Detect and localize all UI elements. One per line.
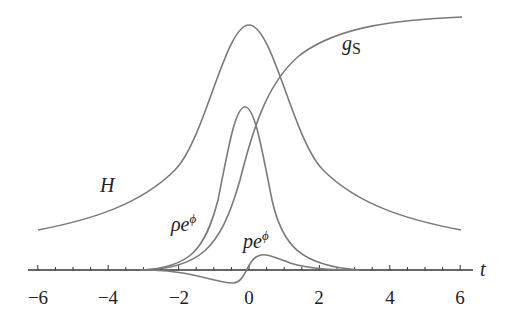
tick-label: −2 (169, 287, 189, 308)
line-chart: −6 −4 −2 0 2 4 6 t H ρeϕ peϕ gS (0, 0, 511, 313)
tick-label: 2 (314, 287, 324, 308)
label-rho-e-phi: ρeϕ (170, 211, 196, 236)
tick-label: −4 (98, 287, 119, 308)
tick-label: 6 (455, 287, 465, 308)
label-H: H (99, 174, 116, 196)
label-g-s: gS (342, 32, 361, 57)
curve-p-e-phi (150, 255, 360, 283)
tick-label: 4 (385, 287, 395, 308)
tick-label: −6 (28, 287, 48, 308)
curve-H (38, 25, 461, 230)
label-p-e-phi: peϕ (241, 228, 269, 253)
x-axis-tick-labels: −6 −4 −2 0 2 4 6 (28, 287, 465, 308)
tick-label: 0 (244, 287, 254, 308)
x-axis-label: t (480, 258, 486, 280)
